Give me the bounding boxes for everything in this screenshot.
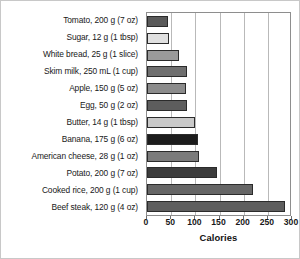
x-tick-label: 300: [284, 218, 298, 227]
bar: [147, 201, 285, 212]
category-label: Banana, 175 g (6 oz): [1, 131, 142, 148]
category-label: Potato, 200 g (7 oz): [1, 165, 142, 182]
bar-series: [147, 13, 290, 215]
bar-row: [147, 63, 290, 80]
bar: [147, 117, 195, 128]
x-axis-title: Calories: [146, 232, 291, 243]
category-label: Egg, 50 g (2 oz): [1, 97, 142, 114]
x-tick-label: 50: [165, 218, 175, 227]
category-label: White bread, 25 g (1 slice): [1, 46, 142, 63]
bar: [147, 184, 253, 195]
x-tick-label: 250: [260, 218, 274, 227]
category-label: Beef steak, 120 g (4 oz): [1, 199, 142, 216]
category-label: Cooked rice, 200 g (1 cup): [1, 182, 142, 199]
bar-row: [147, 13, 290, 30]
bar: [147, 50, 179, 61]
calories-bar-chart: Tomato, 200 g (7 oz)Sugar, 12 g (1 tbsp)…: [0, 0, 300, 259]
bar-row: [147, 47, 290, 64]
bar-row: [147, 181, 290, 198]
x-tick-label: 0: [144, 218, 149, 227]
bar: [147, 16, 168, 27]
bar-row: [147, 30, 290, 47]
x-tick-label: 100: [187, 218, 201, 227]
category-label: Tomato, 200 g (7 oz): [1, 12, 142, 29]
bar-row: [147, 198, 290, 215]
bar-row: [147, 97, 290, 114]
bar-row: [147, 148, 290, 165]
x-axis-tick-labels: 050100150200250300: [146, 218, 291, 230]
x-tick-label: 150: [211, 218, 225, 227]
bar-row: [147, 131, 290, 148]
plot-area: [146, 12, 291, 216]
bar: [147, 66, 187, 77]
category-axis-labels: Tomato, 200 g (7 oz)Sugar, 12 g (1 tbsp)…: [1, 12, 142, 216]
x-tick-label: 200: [235, 218, 249, 227]
category-label: Butter, 14 g (1 tbsp): [1, 114, 142, 131]
category-label: Sugar, 12 g (1 tbsp): [1, 29, 142, 46]
bar-row: [147, 164, 290, 181]
bar: [147, 100, 187, 111]
category-label: Apple, 150 g (5 oz): [1, 80, 142, 97]
bar-row: [147, 80, 290, 97]
bar: [147, 134, 198, 145]
bar: [147, 33, 169, 44]
bar: [147, 83, 186, 94]
category-label: American cheese, 28 g (1 oz): [1, 148, 142, 165]
bar: [147, 167, 217, 178]
bar-row: [147, 114, 290, 131]
category-label: Skim milk, 250 mL (1 cup): [1, 63, 142, 80]
bar: [147, 151, 199, 162]
